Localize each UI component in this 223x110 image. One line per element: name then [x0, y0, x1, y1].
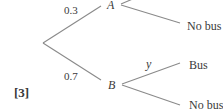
node-b-label: B: [108, 78, 116, 92]
prob-b-label: 0.7: [64, 70, 78, 82]
prob-b-bus-label: y: [145, 57, 152, 71]
branch-b-to-no-bus: [122, 85, 180, 105]
branch-a-to-bus: [121, 0, 135, 4]
outcome-b-bus: Bus: [189, 58, 208, 72]
probability-tree: 0.3 0.7 A B No bus y Bus No bus [3]: [0, 0, 223, 110]
node-a-label: A: [106, 0, 115, 12]
marks-label: [3]: [14, 85, 29, 100]
branch-a-to-no-bus: [121, 5, 180, 23]
prob-a-label: 0.3: [64, 4, 78, 16]
outcome-b-no-bus: No bus: [189, 98, 223, 110]
outcome-a-no-bus: No bus: [187, 19, 222, 33]
